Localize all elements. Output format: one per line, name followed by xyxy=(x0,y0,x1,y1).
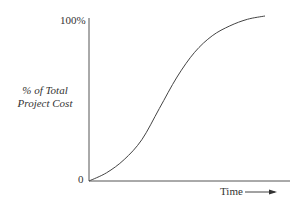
y-tick-100: 100% xyxy=(60,14,86,26)
y-axis-title: % of Total Project Cost xyxy=(10,84,80,110)
time-arrow-head-icon xyxy=(269,190,277,195)
x-axis-title: Time xyxy=(220,185,243,197)
y-tick-0: 0 xyxy=(78,173,84,185)
y-axis-title-line2: Project Cost xyxy=(10,97,80,110)
s-curve-chart: 100% 0 % of Total Project Cost Time xyxy=(0,0,300,203)
y-axis-title-line1: % of Total xyxy=(10,84,80,97)
cost-curve xyxy=(89,16,265,181)
